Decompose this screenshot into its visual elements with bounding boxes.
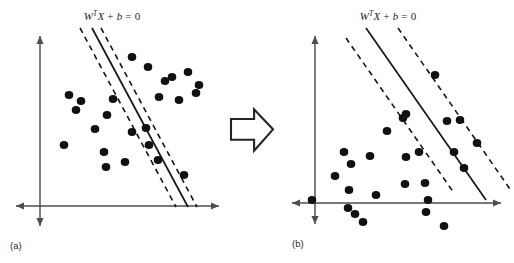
data-point — [473, 139, 482, 147]
figure-canvas: WTX + b = 0 (a) — [0, 0, 514, 263]
data-point — [308, 196, 317, 204]
data-point — [100, 148, 109, 156]
data-point — [103, 111, 112, 119]
panel-b-equation-label: WTX + b = 0 — [360, 9, 417, 22]
data-point — [77, 97, 86, 105]
data-point — [155, 93, 164, 101]
panel-a-equation-label: WTX + b = 0 — [84, 9, 141, 22]
data-point — [128, 128, 137, 136]
data-point — [60, 141, 69, 149]
data-point — [109, 95, 118, 103]
data-point — [450, 148, 459, 156]
data-point — [91, 125, 100, 133]
data-point — [192, 89, 201, 97]
data-point — [65, 91, 74, 99]
data-point — [402, 153, 411, 161]
data-point — [175, 96, 184, 104]
data-point — [456, 116, 465, 124]
data-point — [142, 124, 151, 132]
data-point — [421, 179, 430, 187]
data-point — [128, 53, 137, 61]
data-point — [424, 196, 433, 204]
data-point — [72, 106, 81, 114]
data-point — [359, 218, 368, 226]
data-point — [154, 156, 163, 164]
data-point — [415, 148, 424, 156]
data-point — [460, 164, 469, 172]
data-point — [180, 171, 189, 179]
data-point — [102, 163, 111, 171]
data-point — [195, 81, 204, 89]
data-point — [344, 204, 353, 212]
data-point — [440, 222, 449, 230]
data-point — [347, 160, 356, 168]
data-point — [331, 172, 340, 180]
panel-b-caption: (b) — [292, 238, 304, 249]
data-point — [383, 127, 392, 135]
data-point — [372, 191, 381, 199]
data-point — [399, 114, 408, 122]
data-point — [144, 63, 153, 71]
data-point — [345, 186, 354, 194]
data-point — [431, 71, 440, 79]
data-point — [351, 210, 360, 218]
data-point — [121, 158, 130, 166]
data-point — [168, 73, 177, 81]
data-point — [422, 208, 431, 216]
data-point — [145, 141, 154, 149]
data-point — [443, 117, 452, 125]
data-point — [184, 68, 193, 76]
panel-a-caption: (a) — [10, 240, 22, 251]
svm-figure: WTX + b = 0 (a) — [0, 0, 514, 263]
data-point — [340, 148, 349, 156]
data-point — [401, 180, 410, 188]
data-point — [366, 152, 375, 160]
